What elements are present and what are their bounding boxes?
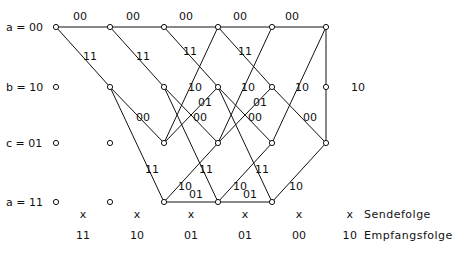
edge-label: 00 — [73, 10, 87, 23]
legend-empfangsfolge: Empfangsfolge — [364, 229, 453, 242]
trellis-edge — [272, 143, 326, 202]
state-node — [215, 24, 220, 29]
edge-label: 00 — [303, 111, 317, 124]
send-mark: x — [80, 208, 87, 221]
received-symbol: 10 — [130, 229, 144, 242]
state-node — [161, 24, 166, 29]
state-node — [215, 84, 220, 89]
state-node — [107, 24, 112, 29]
edge-label: 11 — [199, 163, 213, 176]
received-symbol: 01 — [184, 229, 198, 242]
edge-label: 00 — [233, 10, 247, 23]
edge-label: 11 — [136, 50, 150, 63]
state-node — [323, 140, 328, 145]
state-label-d: a = 11 — [6, 196, 43, 209]
edge-label: 01 — [253, 96, 267, 109]
state-node — [53, 140, 58, 145]
state-label-c: c = 01 — [6, 137, 42, 150]
edge-label: 10 — [289, 180, 303, 193]
trellis-edge — [110, 87, 164, 202]
legend-send-mark: x — [346, 208, 353, 221]
state-node — [323, 84, 328, 89]
edge-label: 00 — [248, 111, 262, 124]
trellis-diagram: 0000000000111111110000000011111110101010… — [0, 0, 475, 257]
state-node — [53, 199, 58, 204]
edge-label: 00 — [126, 10, 140, 23]
send-mark: x — [242, 208, 249, 221]
state-label-a: a = 00 — [6, 21, 43, 34]
edge-label: 10 — [351, 81, 365, 94]
edge-label: 01 — [243, 188, 257, 201]
state-node — [107, 140, 112, 145]
state-node — [215, 140, 220, 145]
state-node — [161, 140, 166, 145]
edge-label: 00 — [136, 111, 150, 124]
edge-label: 11 — [83, 50, 97, 63]
received-symbol: 01 — [238, 229, 252, 242]
send-mark: x — [188, 208, 195, 221]
edge-label: 01 — [198, 96, 212, 109]
trellis-edge — [272, 87, 326, 143]
legend-sendefolge: Sendefolge — [364, 208, 431, 221]
received-symbol: 11 — [76, 229, 90, 242]
state-node — [269, 24, 274, 29]
edge-label: 11 — [238, 45, 252, 58]
send-mark: x — [296, 208, 303, 221]
legend-received-value: 10 — [343, 229, 358, 242]
edge-label: 11 — [255, 163, 269, 176]
edge-label: 00 — [193, 111, 207, 124]
state-node — [53, 24, 58, 29]
state-node — [215, 199, 220, 204]
state-label-b: b = 10 — [6, 81, 43, 94]
edge-label: 10 — [241, 81, 255, 94]
state-node — [323, 24, 328, 29]
send-mark: x — [134, 208, 141, 221]
state-node — [53, 84, 58, 89]
state-node — [269, 199, 274, 204]
edge-label: 00 — [179, 10, 193, 23]
received-symbol: 00 — [292, 229, 306, 242]
state-node — [269, 140, 274, 145]
edge-label: 10 — [295, 81, 309, 94]
state-node — [107, 199, 112, 204]
edge-label: 11 — [183, 45, 197, 58]
edge-label: 00 — [285, 10, 299, 23]
edge-label: 10 — [188, 81, 202, 94]
state-node — [161, 84, 166, 89]
state-node — [107, 84, 112, 89]
edge-label: 01 — [189, 188, 203, 201]
edge-label: 11 — [145, 163, 159, 176]
state-node — [269, 84, 274, 89]
state-node — [161, 199, 166, 204]
